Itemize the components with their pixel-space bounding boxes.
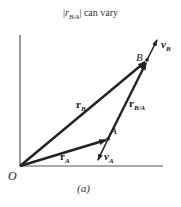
point-a-dot	[106, 137, 110, 141]
v-a-label: vA	[104, 150, 114, 165]
v-b-vector	[147, 40, 157, 60]
r-b-label: rB	[76, 98, 86, 113]
v-b-label: vB	[161, 38, 171, 53]
point-a-label: A	[109, 124, 117, 136]
point-b-label: B	[136, 51, 143, 63]
r-b-vector	[20, 62, 145, 166]
vector-diagram: O A B rB rA rB/A vA vB	[0, 0, 181, 207]
origin-label: O	[8, 169, 17, 183]
r-ba-label: rB/A	[129, 97, 146, 112]
point-b-dot	[145, 58, 149, 62]
figure-caption: (a)	[77, 182, 90, 194]
